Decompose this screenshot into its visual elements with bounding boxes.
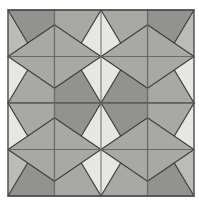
star-tiling-diagram: Four-Pointed Star Tiling Pattern A squar… [0,0,199,206]
pattern-root [8,10,194,196]
figure-canvas: Four-Pointed Star Tiling Pattern A squar… [0,0,199,206]
